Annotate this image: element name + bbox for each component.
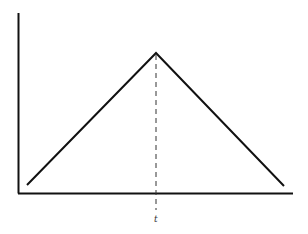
marker-label: t — [154, 214, 158, 224]
diagram-canvas: t — [0, 0, 308, 234]
